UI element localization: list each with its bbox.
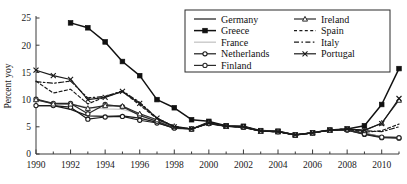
y-axis-title: Percent yoy	[3, 63, 13, 108]
legend-label: France	[221, 37, 249, 48]
data-point-square	[379, 102, 384, 107]
data-point-square	[68, 21, 73, 26]
chart-legend: GermanyGreeceFranceNetherlandsFinlandIre…	[185, 10, 390, 72]
x-tick-label: 2008	[338, 160, 357, 170]
data-point-circle	[103, 115, 107, 119]
x-tick-label: 1996	[130, 160, 149, 170]
data-point-square	[103, 40, 108, 45]
legend-label: Greece	[221, 25, 250, 36]
data-point-circle	[397, 136, 401, 140]
legend-label: Finland	[221, 60, 252, 71]
data-point-circle	[34, 103, 38, 107]
legend-label: Germany	[221, 14, 258, 25]
x-tick-label: 2004	[269, 160, 288, 170]
x-tick-label: 2002	[234, 160, 253, 170]
data-point-circle	[380, 135, 384, 139]
y-tick-label: 0	[26, 149, 31, 159]
data-point-square	[203, 28, 208, 33]
data-point-circle	[203, 52, 207, 56]
y-tick-label: 10	[22, 95, 32, 105]
data-point-square	[120, 59, 125, 64]
data-point-square	[189, 117, 194, 122]
x-tick-label: 2010	[372, 160, 391, 170]
line-chart: 0510152025199019921994199619982000200220…	[0, 0, 407, 184]
y-tick-label: 15	[22, 68, 32, 78]
data-point-triangle	[137, 111, 142, 116]
y-tick-label: 25	[22, 13, 32, 23]
data-point-square	[137, 73, 142, 78]
data-point-circle	[138, 118, 142, 122]
chart-container: 0510152025199019921994199619982000200220…	[0, 0, 407, 184]
data-point-square	[397, 66, 402, 71]
data-point-triangle	[120, 104, 125, 109]
x-tick-label: 1990	[27, 160, 46, 170]
x-tick-label: 2006	[303, 160, 322, 170]
x-tick-label: 1994	[96, 160, 115, 170]
x-tick-label: 1992	[61, 160, 80, 170]
legend-label: Spain	[321, 25, 344, 36]
data-point-circle	[86, 117, 90, 121]
x-tick-label: 1998	[165, 160, 184, 170]
y-tick-label: 5	[26, 122, 31, 132]
data-point-square	[172, 105, 177, 110]
data-point-circle	[120, 114, 124, 118]
data-point-circle	[203, 63, 207, 67]
y-tick-label: 20	[22, 41, 32, 51]
x-tick-label: 2000	[199, 160, 218, 170]
data-point-square	[86, 25, 91, 30]
legend-label: Netherlands	[221, 48, 269, 59]
data-point-circle	[86, 112, 90, 116]
legend-label: Italy	[321, 37, 339, 48]
legend-label: Portugal	[321, 48, 355, 59]
data-point-square	[155, 97, 160, 102]
legend-label: Ireland	[321, 14, 349, 25]
